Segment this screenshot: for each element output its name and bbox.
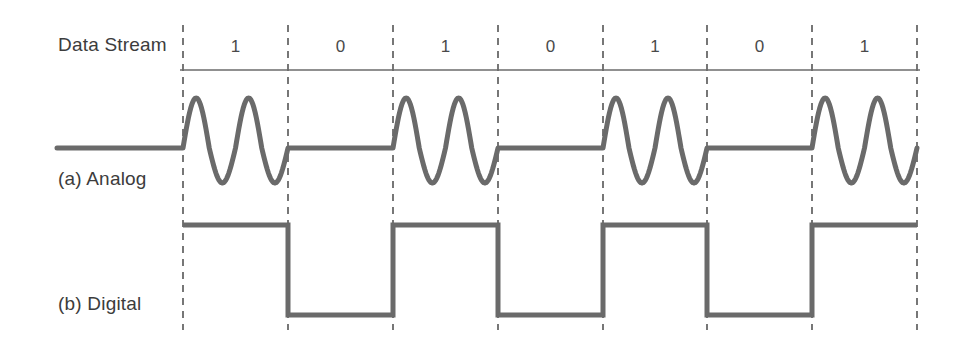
- bit-label-1: 0: [336, 37, 345, 56]
- signal-diagram-canvas: Data Stream (a) Analog (b) Digital 10101…: [0, 0, 960, 350]
- row-label-analog: (a) Analog: [58, 168, 147, 189]
- row-label-digital: (b) Digital: [58, 293, 142, 314]
- bit-label-4: 1: [650, 37, 659, 56]
- bit-label-5: 0: [755, 37, 764, 56]
- bit-label-0: 1: [231, 37, 240, 56]
- row-label-data-stream: Data Stream: [58, 34, 167, 55]
- bit-label-3: 0: [546, 37, 555, 56]
- bit-label-2: 1: [441, 37, 450, 56]
- signal-diagram-figure: Data Stream (a) Analog (b) Digital 10101…: [0, 0, 960, 350]
- bit-label-6: 1: [860, 37, 869, 56]
